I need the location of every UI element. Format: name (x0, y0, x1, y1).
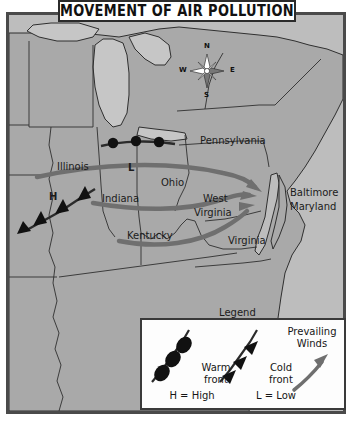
low-pressure-marker: L (128, 162, 134, 173)
map-title-text: MOVEMENT OF AIR POLLUTION (60, 2, 294, 20)
legend-high-key: H = High (154, 390, 230, 401)
state-label-indiana: Indiana (102, 193, 139, 204)
state-label-virginia: Virginia (228, 235, 266, 246)
state-label-ohio: Ohio (161, 177, 184, 188)
legend-cold-front-label-2: front (258, 374, 304, 385)
legend-low-key: L = Low (238, 390, 314, 401)
legend-prevailing-winds-label-1: Prevailing (280, 326, 344, 337)
city-label-maryland: Maryland (290, 201, 336, 212)
state-label-illinois: Illinois (57, 161, 89, 172)
map-title-plaque: MOVEMENT OF AIR POLLUTION (58, 0, 296, 22)
legend-warm-front-label-2: front (190, 374, 242, 385)
state-label-west: West (203, 193, 228, 204)
compass-south-label: S (204, 91, 209, 99)
state-label-kentucky: Kentucky (127, 230, 173, 241)
map-legend-box: Warm front Cold front Prevailing Winds H… (140, 318, 346, 410)
compass-east-label: E (230, 66, 235, 74)
air-pollution-map-figure: N S E W Illinois Indiana Ohio Pennsylvan… (0, 0, 352, 422)
state-label-west-virginia: Virginia (194, 207, 232, 218)
high-pressure-marker: H (49, 191, 57, 202)
compass-north-label: N (204, 42, 210, 50)
compass-west-label: W (179, 66, 187, 74)
legend-prevailing-winds-label-2: Winds (280, 338, 344, 349)
legend-warm-front-icon (151, 330, 195, 384)
legend-cold-front-label-1: Cold (258, 362, 304, 373)
legend-caption: Legend (219, 307, 256, 318)
city-label-baltimore: Baltimore (290, 187, 338, 198)
legend-warm-front-label-1: Warm (190, 362, 242, 373)
state-label-pennsylvania: Pennsylvania (200, 135, 266, 146)
